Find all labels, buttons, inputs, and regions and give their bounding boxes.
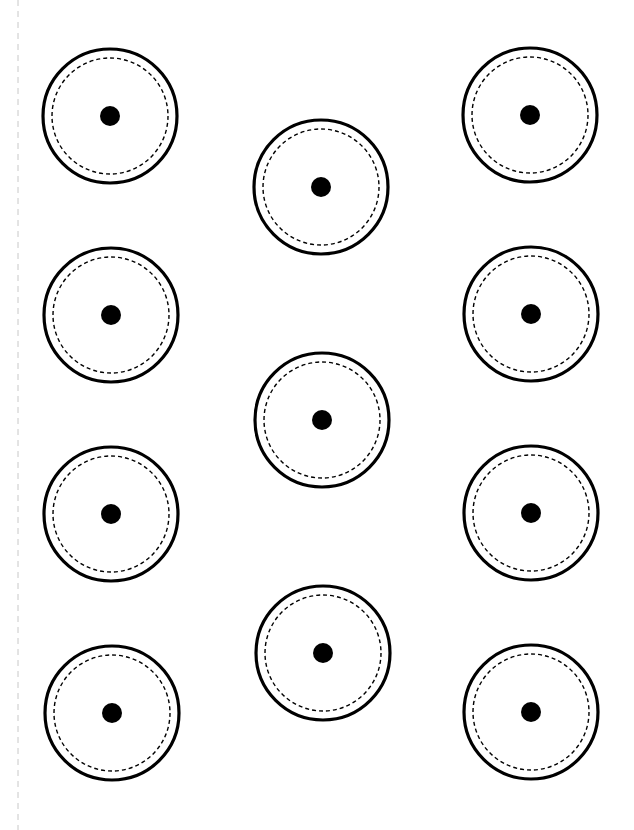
center-dot-icon (100, 106, 120, 126)
center-dot-icon (521, 304, 541, 324)
center-dot-icon (521, 503, 541, 523)
center-dot-icon (311, 177, 331, 197)
center-dot-icon (312, 410, 332, 430)
circle-template-sheet (0, 0, 634, 830)
center-dot-icon (521, 702, 541, 722)
center-dot-icon (101, 305, 121, 325)
center-dot-icon (102, 703, 122, 723)
center-dot-icon (101, 504, 121, 524)
center-dot-icon (313, 643, 333, 663)
center-dot-icon (520, 105, 540, 125)
